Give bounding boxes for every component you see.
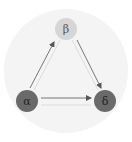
node-alpha-label: α [23,95,31,108]
node-alpha: α [16,90,38,112]
triangle-diagram: β α δ [0,0,132,142]
node-delta: δ [94,90,116,112]
node-beta-label: β [63,23,69,36]
node-beta: β [55,18,77,40]
node-delta-label: δ [102,95,109,108]
